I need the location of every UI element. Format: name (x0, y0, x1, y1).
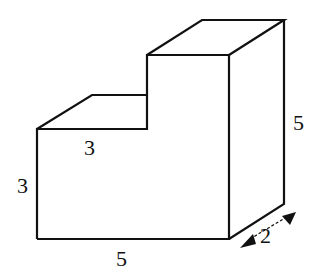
label-depth: 2 (260, 223, 271, 248)
label-base-width: 5 (116, 246, 127, 271)
right-side-face (229, 20, 284, 239)
arrow-head-right-icon (282, 212, 296, 225)
arrow-head-left-icon (240, 234, 256, 248)
step-solid-diagram: 3 3 5 5 2 (0, 0, 314, 279)
front-face (37, 55, 229, 239)
label-lower-step-height: 3 (17, 173, 28, 198)
label-lower-step-width: 3 (84, 135, 95, 160)
label-total-height: 5 (293, 110, 304, 135)
lower-step-top-face (37, 95, 147, 129)
